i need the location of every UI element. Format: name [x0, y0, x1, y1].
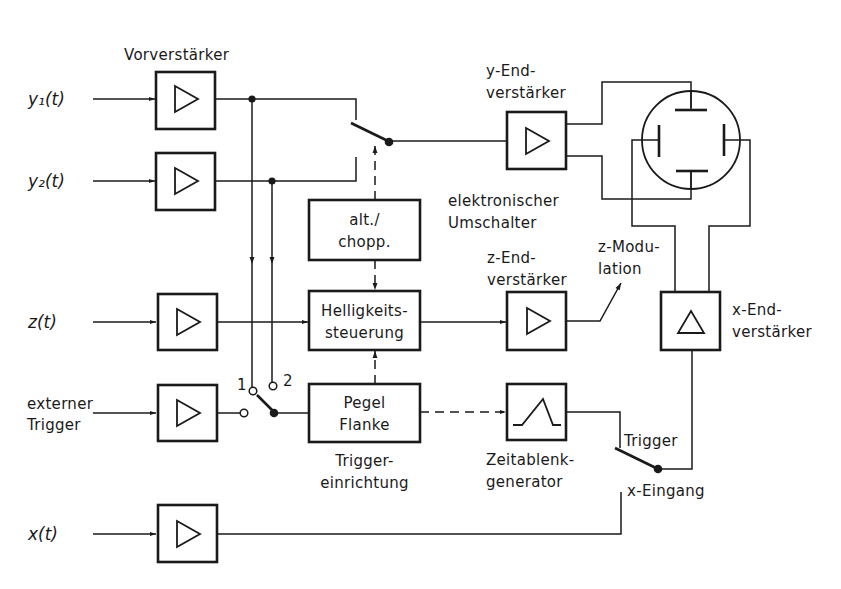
selector-contact-ext [240, 409, 248, 417]
x-end-label-2: verstärker [732, 323, 812, 341]
trigger-einrichtung-label-2: einrichtung [320, 474, 409, 492]
wire-x-switch-to-x-end [658, 350, 692, 469]
wire-x-end-to-right-plate [709, 140, 750, 292]
selector-label-1: 1 [237, 376, 247, 394]
wire-y-end-to-bottom-plate [566, 156, 691, 199]
y-end-amplifier [507, 112, 566, 169]
trigger-einrichtung-label-1: Trigger- [334, 452, 394, 470]
wire-y-end-to-top-plate [566, 82, 691, 124]
x-eingang-label: x-Eingang [627, 482, 705, 500]
svg-text:chopp.: chopp. [338, 233, 391, 251]
input-label-ext-trigger-2: Trigger [26, 416, 81, 434]
wire-y2-out [215, 157, 356, 181]
alt-chopp-block: alt./ chopp. [309, 200, 420, 260]
z-modulation-label-2: lation [598, 260, 642, 278]
wire-x-preamp-to-switch [217, 492, 621, 534]
trigger-selector-blade [257, 395, 272, 410]
umschalter-label-1: elektronischer [448, 192, 560, 210]
zeitablenk-label-2: generator [486, 473, 563, 491]
wire-y1-out [215, 99, 356, 120]
input-label-z: z(t) [27, 312, 57, 332]
preamp-ext-trigger [158, 385, 217, 441]
zeitablenk-generator [507, 384, 566, 440]
oscilloscope-block-diagram: y₁(t) y₂(t) z(t) externer Trigger x(t) V… [0, 0, 841, 589]
z-end-label-2: verstärker [487, 271, 567, 289]
z-end-amplifier [507, 292, 566, 350]
x-end-label-1: x-End- [732, 301, 782, 319]
selector-contact-2 [269, 382, 277, 390]
preamp-y2 [156, 153, 215, 210]
z-modulation-label-1: z-Modu- [598, 238, 660, 256]
selector-contact-1 [249, 387, 257, 395]
preamp-z [158, 294, 217, 350]
wire-zeitablenk-to-x-switch [566, 412, 620, 448]
input-label-x: x(t) [27, 524, 58, 544]
preamp-y1 [156, 72, 215, 129]
y-end-label-1: y-End- [486, 62, 536, 80]
x-input-switch-blade [615, 448, 656, 468]
input-label-y2: y₂(t) [27, 171, 65, 191]
zeitablenk-label-1: Zeitablenk- [486, 451, 575, 469]
helligkeit-block: Helligkeits- steuerung [309, 291, 420, 350]
x-end-amplifier [661, 292, 720, 350]
channel-switch-pivot [385, 138, 394, 147]
svg-text:Helligkeits-: Helligkeits- [321, 302, 408, 320]
input-label-y1: y₁(t) [27, 89, 65, 109]
pegel-flanke-block: Pegel Flanke [309, 384, 420, 442]
preamp-label: Vorverstärker [124, 46, 230, 64]
preamp-x [158, 505, 217, 562]
y-end-label-2: verstärker [486, 84, 566, 102]
selector-label-2: 2 [283, 372, 293, 390]
svg-text:Pegel: Pegel [343, 394, 385, 412]
svg-text:alt./: alt./ [349, 211, 380, 229]
channel-switch-blade [351, 123, 388, 141]
svg-text:Flanke: Flanke [339, 416, 390, 434]
input-label-ext-trigger-1: externer [27, 395, 94, 413]
trigger-switch-label: Trigger [623, 432, 678, 450]
svg-text:steuerung: steuerung [325, 324, 404, 342]
wire-z-modulation-out [566, 283, 621, 321]
z-end-label-1: z-End- [487, 249, 536, 267]
umschalter-label-2: Umschalter [448, 214, 537, 232]
